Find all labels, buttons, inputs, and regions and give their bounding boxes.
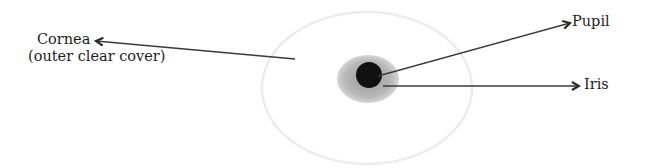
pupil-label: Pupil (572, 13, 610, 30)
iris-label: Iris (584, 76, 609, 93)
cornea-label-description: (outer clear cover) (28, 48, 165, 65)
cornea-label: Cornea (outer clear cover) (30, 31, 165, 65)
pupil-arrow (378, 23, 570, 76)
pupil-shape (356, 62, 382, 88)
eye-diagram-canvas (0, 0, 645, 168)
cornea-label-title: Cornea (37, 31, 165, 48)
eye-diagram: Cornea (outer clear cover) Pupil Iris (0, 0, 645, 168)
